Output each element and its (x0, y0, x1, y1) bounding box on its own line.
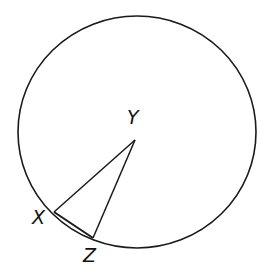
circle (18, 16, 256, 248)
segment-yz (93, 140, 135, 238)
diagram-canvas (0, 0, 277, 278)
segment-yx (54, 140, 135, 212)
label-x: X (32, 208, 45, 227)
segment-xz (54, 212, 93, 238)
label-z: Z (83, 246, 96, 265)
label-y: Y (127, 108, 139, 127)
